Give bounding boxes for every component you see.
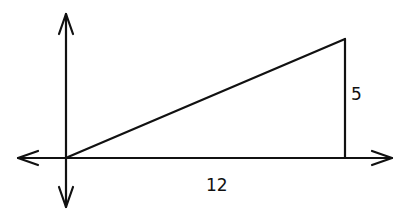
- hypotenuse: [68, 39, 345, 157]
- triangle-diagram: 5 12: [0, 0, 394, 215]
- base-label: 12: [206, 175, 228, 195]
- height-label: 5: [351, 84, 362, 104]
